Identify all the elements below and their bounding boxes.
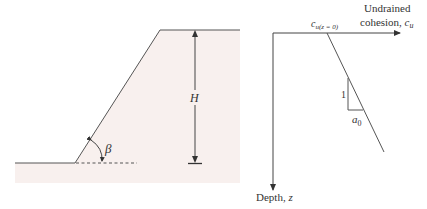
slope-horizontal-label: a0 <box>352 113 362 128</box>
slope-triangle <box>348 78 363 110</box>
cohesion-depth-diagram: 1 a0 cu(z = 0) Undrained cohesion, cu De… <box>256 2 414 203</box>
intercept-label: cu(z = 0) <box>311 18 339 31</box>
cohesion-axis-label-line1: Undrained <box>364 2 411 14</box>
height-label: H <box>189 91 200 105</box>
slope-vertical-label: 1 <box>341 89 346 100</box>
angle-label: β <box>104 141 112 156</box>
soil-fill <box>15 30 240 183</box>
depth-axis-label: Depth, z <box>256 191 293 203</box>
cohesion-axis-label-line2: cohesion, cu <box>360 16 414 30</box>
figure-canvas: β H 1 a0 cu(z = 0) Undrained cohesion, c… <box>0 0 427 209</box>
slope-diagram: β H <box>15 30 240 183</box>
cohesion-profile-line <box>327 33 384 152</box>
